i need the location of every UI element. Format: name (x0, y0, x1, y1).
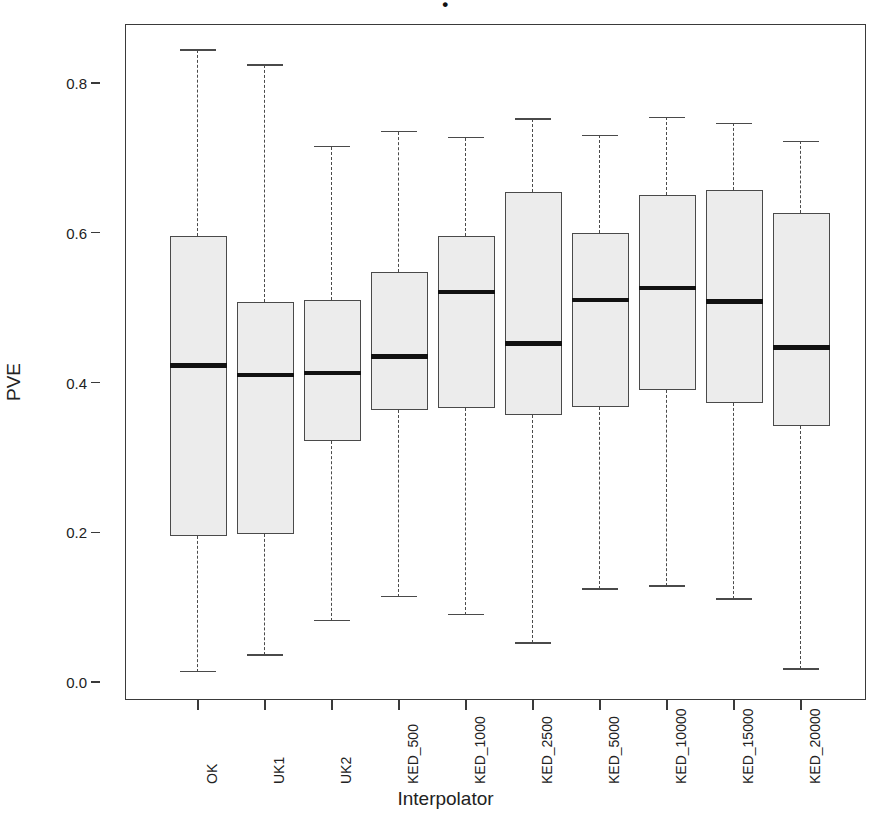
x-axis-tick (264, 700, 265, 710)
boxplot-whisker-upper (398, 132, 399, 272)
boxplot-median (706, 299, 763, 304)
boxplot-median (304, 371, 361, 376)
boxplot-cap-lower (716, 598, 752, 600)
boxplot-cap-lower (381, 596, 417, 598)
x-axis-tick-label: KED_15000 (740, 708, 756, 784)
y-axis-tick-label: 0.6 (66, 224, 87, 241)
y-axis-tick (91, 681, 100, 682)
boxplot-whisker-lower (331, 441, 332, 621)
x-axis-tick-label: OK (204, 764, 220, 784)
boxplot-box (170, 236, 227, 536)
boxplot-cap-lower (649, 585, 685, 587)
boxplot-median (505, 341, 562, 346)
boxplot-whisker-upper (800, 141, 801, 212)
x-axis-tick (532, 700, 533, 710)
boxplot-cap-lower (314, 620, 350, 622)
boxplot-whisker-lower (532, 415, 533, 643)
y-axis-tick-label: 0.4 (66, 374, 87, 391)
boxplot-cap-upper (582, 135, 618, 137)
x-axis-tick (733, 700, 734, 710)
boxplot-cap-upper (716, 123, 752, 125)
boxplot-whisker-upper (733, 123, 734, 190)
boxplot-whisker-lower (398, 410, 399, 596)
y-axis-tick (91, 82, 100, 83)
y-axis-tick (91, 532, 100, 533)
boxplot-whisker-lower (733, 403, 734, 599)
chart-title-fragment: • (0, 0, 891, 10)
boxplot-cap-lower (582, 588, 618, 590)
boxplot-whisker-lower (197, 536, 198, 672)
boxplot-box (639, 195, 696, 390)
boxplot-median (773, 345, 830, 350)
x-axis-tick-label: KED_500 (405, 724, 421, 784)
boxplot-cap-upper (448, 137, 484, 139)
x-axis-tick-label: UK2 (338, 757, 354, 784)
x-axis-tick (599, 700, 600, 710)
boxplot-median (572, 298, 629, 303)
boxplot-cap-upper (515, 118, 551, 120)
boxplot-median (639, 286, 696, 291)
y-axis-tick-label: 0.0 (66, 674, 87, 691)
boxplot-whisker-lower (800, 426, 801, 669)
x-axis-tick-label: KED_2500 (539, 716, 555, 784)
boxplot-cap-upper (247, 64, 283, 66)
x-axis-tick-label: KED_1000 (472, 716, 488, 784)
boxplot-cap-lower (783, 668, 819, 670)
x-axis-tick (800, 700, 801, 710)
x-axis-tick-label: KED_5000 (606, 716, 622, 784)
boxplot-box (773, 213, 830, 426)
boxplot-whisker-upper (666, 117, 667, 194)
x-axis-tick (465, 700, 466, 710)
boxplot-whisker-upper (197, 50, 198, 236)
boxplot-cap-lower (448, 614, 484, 616)
boxplot-cap-upper (180, 49, 216, 51)
x-axis-tick-label: KED_20000 (807, 708, 823, 784)
boxplot-whisker-upper (264, 65, 265, 302)
boxplot-median (237, 373, 294, 378)
y-axis-tick-label: 0.2 (66, 524, 87, 541)
y-axis-tick (91, 232, 100, 233)
boxplot-whisker-lower (666, 390, 667, 586)
boxplot-median (170, 363, 227, 368)
boxplot-cap-lower (247, 654, 283, 656)
boxplot-whisker-upper (331, 147, 332, 300)
boxplot-box (706, 190, 763, 403)
y-axis-tick-label: 0.8 (66, 75, 87, 92)
boxplot-whisker-upper (465, 138, 466, 236)
boxplot-cap-lower (180, 671, 216, 673)
boxplot-whisker-upper (532, 119, 533, 192)
boxplot-box (438, 236, 495, 408)
x-axis-tick (666, 700, 667, 710)
boxplot-median (438, 290, 495, 295)
x-axis-tick (197, 700, 198, 710)
boxplot-whisker-lower (599, 407, 600, 589)
x-axis-tick (398, 700, 399, 710)
boxplot-whisker-lower (264, 534, 265, 655)
boxplot-cap-upper (314, 146, 350, 148)
boxplot-cap-upper (381, 131, 417, 133)
x-axis-title: Interpolator (0, 788, 891, 810)
x-axis-tick-label: KED_10000 (673, 708, 689, 784)
boxplot-box (572, 233, 629, 407)
boxplot-median (371, 354, 428, 359)
boxplot-box (371, 272, 428, 411)
y-axis: 0.00.20.40.60.8 (0, 0, 125, 825)
chart-canvas: • 0.00.20.40.60.8 PVE Interpolator OKUK1… (0, 0, 891, 825)
boxplot-cap-upper (649, 117, 685, 119)
boxplot-whisker-lower (465, 408, 466, 615)
boxplot-whisker-upper (599, 135, 600, 232)
boxplot-box (505, 192, 562, 414)
y-axis-title: PVE (3, 363, 25, 401)
x-axis-tick (331, 700, 332, 710)
x-axis-tick-label: UK1 (271, 757, 287, 784)
boxplot-box (237, 302, 294, 535)
boxplot-cap-lower (515, 642, 551, 644)
y-axis-tick (91, 382, 100, 383)
boxplot-cap-upper (783, 141, 819, 143)
